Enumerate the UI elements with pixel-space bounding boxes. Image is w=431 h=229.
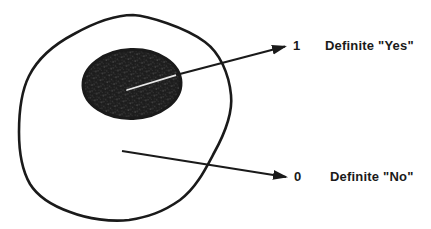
no-value-label: 0 (294, 170, 301, 184)
yes-text-label: Definite "Yes" (325, 39, 414, 53)
inner-subset-ellipse (82, 48, 182, 120)
yes-value-label: 1 (293, 39, 300, 53)
diagram-svg (0, 0, 431, 229)
no-text-label: Definite "No" (330, 170, 414, 184)
yes-arrow-line (176, 47, 285, 76)
diagram-canvas: 1 Definite "Yes" 0 Definite "No" (0, 0, 431, 229)
